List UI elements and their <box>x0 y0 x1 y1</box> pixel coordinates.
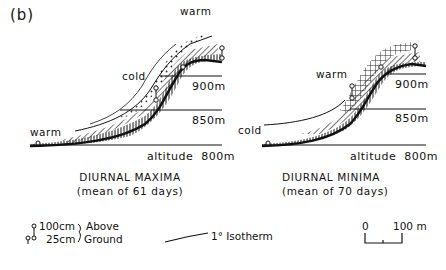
caption-maxima: DIURNAL MAXIMA (mean of 61 days) <box>70 170 190 198</box>
legend-above: Above <box>86 220 119 232</box>
label-cold: cold <box>238 124 262 136</box>
label-warm-lower: warm <box>30 126 61 138</box>
altitude-800: altitude 800m <box>350 150 438 163</box>
caption-title: DIURNAL MAXIMA <box>70 170 190 184</box>
caption-title: DIURNAL MINIMA <box>282 170 402 184</box>
scale-end: 100 m <box>393 220 427 232</box>
legend-25cm: 25cm <box>46 233 75 245</box>
caption-subtitle: (mean of 61 days) <box>70 184 190 198</box>
legend-isotherm: 1° Isotherm <box>211 230 273 242</box>
right-panel-diagram <box>262 42 426 146</box>
label-cold: cold <box>122 70 146 82</box>
sensor-25cm-icon <box>26 236 30 240</box>
sensor-100cm-icon <box>32 224 36 228</box>
scale-bar <box>365 233 402 243</box>
altitude-850: 850m <box>192 114 226 127</box>
legend-ground: Ground <box>84 233 123 245</box>
label-warm-upper: warm <box>180 5 211 17</box>
scale-start: 0 <box>362 220 369 232</box>
caption-subtitle: (mean of 70 days) <box>282 184 402 198</box>
altitude-850: 850m <box>395 112 429 125</box>
altitude-900: 900m <box>192 80 226 93</box>
altitude-800: altitude 800m <box>147 150 235 163</box>
altitude-900: 900m <box>395 78 429 91</box>
isotherm-sample-line <box>165 233 208 242</box>
bracket-icon <box>78 224 80 242</box>
legend-100cm: 100cm <box>39 220 75 232</box>
label-warm: warm <box>316 68 347 80</box>
caption-minima: DIURNAL MINIMA (mean of 70 days) <box>278 170 402 198</box>
